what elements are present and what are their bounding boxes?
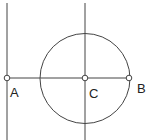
label-C: C	[89, 86, 98, 101]
label-A: A	[10, 85, 19, 100]
point-A	[4, 75, 10, 81]
diagram-canvas: A C B	[0, 0, 147, 140]
label-B: B	[137, 81, 146, 96]
point-B	[126, 75, 132, 81]
point-C	[82, 75, 88, 81]
